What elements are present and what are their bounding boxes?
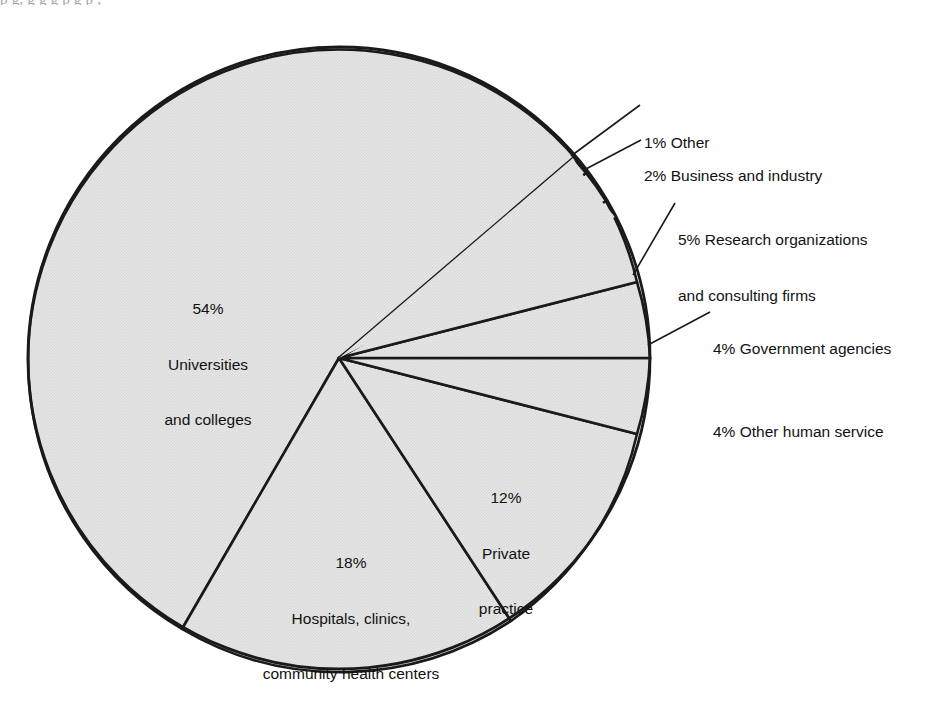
leader-line-other [571,105,640,156]
slice-label-universities: 54% Universities and colleges [128,263,288,467]
slice-label-private-line1: 12% [438,489,574,508]
slice-label-hospitals-line3: community health centers [206,665,496,684]
callout-label-other-human-service: 4% Other human service [713,386,950,479]
slice-label-private-line2: Private [438,545,574,564]
callout-label-research-line1: 5% Research organizations [678,231,938,250]
pie-chart-figure: p g, g g g p g p , [0,0,950,706]
slice-label-private-line3: practice [438,600,574,619]
slice-label-universities-line2: Universities [128,356,288,375]
callout-label-government-line1: 4% Government agencies [713,340,950,359]
callout-label-business-line1: 2% Business and industry [644,167,934,186]
slice-label-universities-line1: 54% [128,300,288,319]
slice-label-private-practice: 12% Private practice [438,452,574,656]
slice-label-universities-line3: and colleges [128,411,288,430]
callout-label-government-agencies: 4% Government agencies [713,303,950,396]
leader-line-business [584,140,641,170]
callout-label-human-service-line1: 4% Other human service [713,423,950,442]
